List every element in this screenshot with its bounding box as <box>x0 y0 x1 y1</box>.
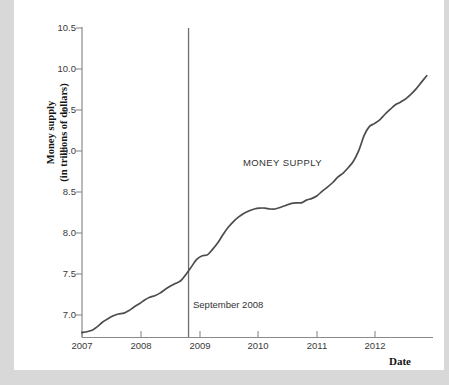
plot-area <box>0 0 449 385</box>
money-supply-chart: Money supply (in trillions of dollars) D… <box>0 0 449 385</box>
money-supply-line <box>82 76 427 333</box>
y-axis-ticks <box>76 28 82 315</box>
x-axis-ticks <box>82 331 375 337</box>
page-background: Money supply (in trillions of dollars) D… <box>0 0 449 385</box>
